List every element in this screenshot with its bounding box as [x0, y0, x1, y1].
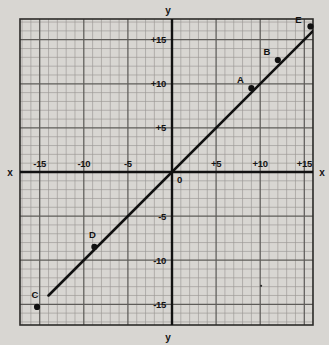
graph-figure: ABCDE -15-10-5+5+10+15+15+10+5-5-10-15 x…: [0, 0, 329, 345]
origin-label: 0: [177, 174, 182, 185]
x-tick-label: -10: [77, 158, 90, 169]
data-point-d: [91, 244, 97, 250]
point-label-d: D: [89, 229, 96, 240]
paper-specks: [260, 285, 262, 287]
data-point-c: [34, 304, 40, 310]
x-tick-label: +10: [253, 158, 268, 169]
y-tick-label: +5: [156, 122, 167, 133]
y-tick-label: -5: [158, 211, 167, 222]
paper-speck: [260, 285, 262, 287]
x-axis-label-right: x: [319, 167, 325, 178]
y-axis-label-top: y: [165, 5, 171, 16]
x-axis-label-left: x: [7, 167, 13, 178]
y-axis-label-bottom: y: [165, 332, 171, 343]
point-label-e: E: [295, 14, 301, 25]
data-point-b: [275, 57, 281, 63]
y-tick-label: +10: [151, 78, 166, 89]
x-tick-label: -15: [33, 158, 47, 169]
y-tick-label: -10: [153, 255, 166, 266]
x-tick-label: -5: [124, 158, 133, 169]
x-tick-label: +5: [211, 158, 222, 169]
x-tick-label: +15: [297, 158, 313, 169]
coordinate-plot: ABCDE -15-10-5+5+10+15+15+10+5-5-10-15 x…: [0, 0, 329, 345]
point-label-c: C: [32, 289, 39, 300]
point-label-b: B: [263, 46, 270, 57]
y-tick-label: -15: [153, 299, 167, 310]
data-point-e: [307, 23, 313, 29]
point-label-a: A: [237, 74, 244, 85]
data-point-a: [248, 85, 254, 91]
y-tick-label: +15: [151, 34, 167, 45]
